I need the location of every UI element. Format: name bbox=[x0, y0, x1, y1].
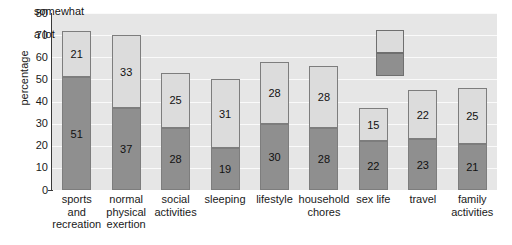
y-axis-tick-10: 10 bbox=[22, 162, 48, 173]
y-axis-tick-20: 20 bbox=[22, 140, 48, 151]
bar-segment-a-lot[interactable]: 28 bbox=[161, 128, 190, 190]
bar-group[interactable]: 2125 bbox=[458, 88, 487, 190]
legend-swatch-somewhat bbox=[376, 30, 404, 53]
bar-segment-a-lot[interactable]: 28 bbox=[309, 128, 338, 190]
legend bbox=[376, 30, 404, 76]
y-axis-tick-30: 30 bbox=[22, 118, 48, 129]
bar-group[interactable]: 5121 bbox=[62, 31, 91, 190]
bar-group[interactable]: 1931 bbox=[211, 79, 240, 190]
x-axis-label-line: activities bbox=[440, 206, 505, 219]
bar-segment-somewhat[interactable]: 25 bbox=[161, 73, 190, 128]
bar-segment-somewhat[interactable]: 21 bbox=[62, 31, 91, 77]
x-axis-label-line: activities bbox=[143, 206, 208, 219]
x-axis-label-8: familyactivities bbox=[440, 193, 505, 218]
x-axis-line bbox=[48, 190, 53, 191]
y-axis-tick-50: 50 bbox=[22, 74, 48, 85]
bar-group[interactable]: 2322 bbox=[408, 90, 437, 190]
x-axis-category-labels: sportsandrecreationnormalphysicalexertio… bbox=[52, 193, 497, 245]
x-axis-label-line: chores bbox=[291, 206, 356, 219]
bar-segment-somewhat[interactable]: 33 bbox=[112, 35, 141, 108]
bar-group[interactable]: 2825 bbox=[161, 73, 190, 190]
bar-segment-a-lot[interactable]: 30 bbox=[260, 124, 289, 190]
bar-group[interactable]: 3028 bbox=[260, 62, 289, 190]
bar-segment-a-lot[interactable]: 37 bbox=[112, 108, 141, 190]
bar-segment-somewhat[interactable]: 28 bbox=[309, 66, 338, 128]
bar-segment-a-lot[interactable]: 19 bbox=[211, 148, 240, 190]
legend-swatch-a-lot bbox=[376, 53, 404, 76]
bar-segment-somewhat[interactable]: 15 bbox=[359, 108, 388, 141]
legend-label-somewhat: somewhat bbox=[34, 5, 84, 17]
x-axis-label-line: exertion bbox=[93, 218, 158, 231]
bar-segment-somewhat[interactable]: 28 bbox=[260, 62, 289, 124]
bar-segment-somewhat[interactable]: 31 bbox=[211, 79, 240, 148]
y-axis-tick-60: 60 bbox=[22, 52, 48, 63]
plot-area: 512137332825193130282828221523222125 bbox=[52, 13, 497, 190]
x-axis-label-line: family bbox=[440, 193, 505, 206]
y-axis-tick-40: 40 bbox=[22, 96, 48, 107]
bar-group[interactable]: 3733 bbox=[112, 35, 141, 190]
bar-segment-a-lot[interactable]: 23 bbox=[408, 139, 437, 190]
gridline-80 bbox=[52, 13, 497, 14]
legend-label-a-lot: a lot bbox=[34, 28, 55, 40]
bar-segment-a-lot[interactable]: 51 bbox=[62, 77, 91, 190]
stacked-bar-chart: percentage 01020304050607080 51213733282… bbox=[0, 0, 512, 245]
bar-group[interactable]: 2828 bbox=[309, 66, 338, 190]
bar-segment-a-lot[interactable]: 22 bbox=[359, 141, 388, 190]
bar-segment-somewhat[interactable]: 25 bbox=[458, 88, 487, 143]
bar-group[interactable]: 2215 bbox=[359, 108, 388, 190]
bar-segment-somewhat[interactable]: 22 bbox=[408, 90, 437, 139]
bar-segment-a-lot[interactable]: 21 bbox=[458, 144, 487, 190]
